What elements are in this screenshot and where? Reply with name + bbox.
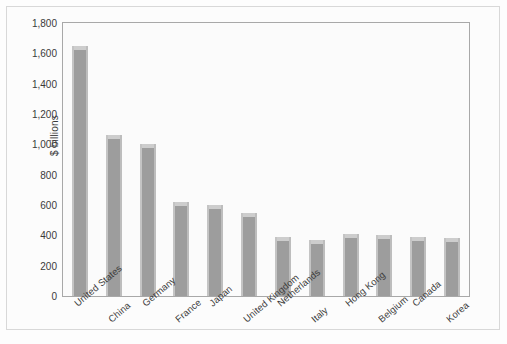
bar-left-edge [343, 234, 345, 296]
bar [241, 213, 257, 296]
bar-left-edge [72, 46, 74, 296]
bar-left-edge [207, 205, 209, 296]
bar-right-edge [154, 144, 156, 296]
bar-right-edge [86, 46, 88, 296]
plot-area [63, 23, 469, 296]
y-axis-tick-label: 0 [11, 291, 57, 302]
y-axis-tick-label: 400 [11, 230, 57, 241]
y-axis-tick-label: 1,800 [11, 18, 57, 29]
chart-figure: $ billions 02004006008001,0001,2001,4001… [0, 0, 507, 344]
bar [140, 144, 156, 296]
y-axis-tick-label: 1,200 [11, 109, 57, 120]
bar-left-edge [309, 240, 311, 296]
bar-left-edge [444, 238, 446, 296]
y-axis-tick-label: 600 [11, 200, 57, 211]
bar [376, 235, 392, 296]
y-axis-tick-label: 1,000 [11, 139, 57, 150]
bar [444, 238, 460, 296]
bar [207, 205, 223, 296]
bar [343, 234, 359, 296]
bar-right-edge [323, 240, 325, 296]
y-axis-tick-label: 800 [11, 169, 57, 180]
y-axis-tick-label: 1,400 [11, 78, 57, 89]
bar [72, 46, 88, 296]
bar-right-edge [390, 235, 392, 296]
bar-right-edge [221, 205, 223, 296]
y-axis-tick-label: 1,600 [11, 48, 57, 59]
bar-right-edge [458, 238, 460, 296]
bar-left-edge [376, 235, 378, 296]
y-axis-tick-label: 200 [11, 260, 57, 271]
bar-right-edge [187, 202, 189, 296]
bar-right-edge [255, 213, 257, 296]
bar-left-edge [140, 144, 142, 296]
bar-left-edge [410, 237, 412, 296]
bar-left-edge [241, 213, 243, 296]
